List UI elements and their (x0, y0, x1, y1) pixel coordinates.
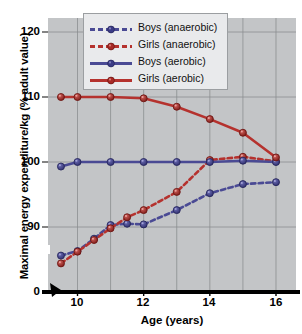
legend-swatch-boys-anaerobic (89, 21, 133, 32)
chart-legend: Boys (anaerobic) Girls (anaerobic) Boy (83, 13, 228, 90)
legend-item-boys-aerobic: Boys (aerobic) (89, 52, 222, 69)
legend-label-boys-anaerobic: Boys (anaerobic) (138, 21, 217, 33)
legend-item-girls-aerobic: Girls (aerobic) (89, 69, 222, 86)
legend-swatch-girls-anaerobic (89, 38, 133, 49)
legend-swatch-boys-aerobic (89, 55, 133, 66)
legend-item-boys-anaerobic: Boys (anaerobic) (89, 18, 222, 35)
legend-label-girls-anaerobic: Girls (anaerobic) (138, 38, 216, 50)
legend-label-boys-aerobic: Boys (aerobic) (138, 55, 206, 67)
legend-label-girls-aerobic: Girls (aerobic) (138, 72, 204, 84)
legend-item-girls-anaerobic: Girls (anaerobic) (89, 35, 222, 52)
legend-swatch-girls-aerobic (89, 72, 133, 83)
chart-figure: Maximal energy expenditure/kg (% adult v… (0, 0, 302, 334)
